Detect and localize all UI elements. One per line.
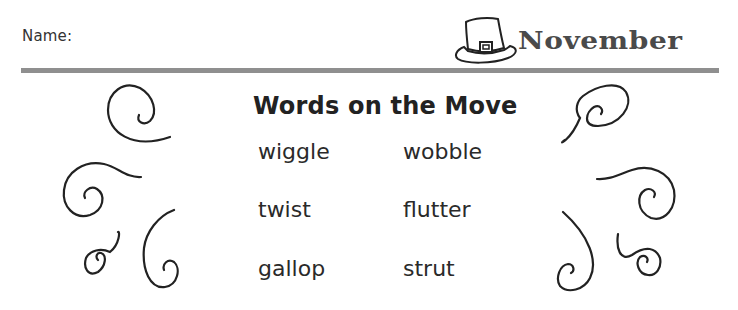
swirl-icon bbox=[562, 85, 628, 142]
swirl-icon bbox=[64, 163, 141, 216]
divider bbox=[21, 68, 719, 73]
word-wiggle: wiggle bbox=[258, 139, 330, 164]
word-twist: twist bbox=[258, 197, 311, 222]
pilgrim-hat-icon bbox=[452, 12, 520, 64]
swirl-icon bbox=[558, 212, 593, 290]
word-wobble: wobble bbox=[403, 139, 482, 164]
swirl-icon bbox=[108, 85, 170, 141]
name-label: Name: bbox=[22, 27, 72, 45]
month-title: November bbox=[518, 26, 683, 55]
word-gallop: gallop bbox=[258, 256, 325, 281]
swirl-icon bbox=[597, 168, 674, 219]
swirl-icon bbox=[85, 232, 119, 274]
swirl-icon bbox=[618, 234, 661, 275]
worksheet-title: Words on the Move bbox=[253, 92, 518, 120]
word-flutter: flutter bbox=[403, 197, 471, 222]
word-strut: strut bbox=[403, 256, 455, 281]
swirl-icon bbox=[144, 210, 178, 287]
